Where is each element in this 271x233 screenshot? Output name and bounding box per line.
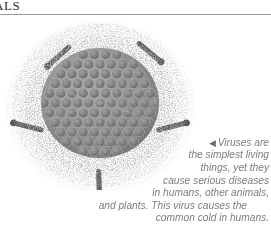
caption-line-3: things, yet they xyxy=(91,162,269,175)
caption-line-1: ◀Viruses are xyxy=(91,137,269,150)
running-head: ALS xyxy=(0,0,20,13)
caption-line-1-text: Viruses are xyxy=(218,137,269,148)
caption-line-2: the simplest living xyxy=(91,149,269,162)
figure-caption: ◀Viruses are the simplest living things,… xyxy=(91,137,269,225)
left-triangle-arrow-icon: ◀ xyxy=(209,138,216,148)
caption-line-6: and plants. This virus causes the xyxy=(91,200,269,213)
caption-line-4: cause serious diseases xyxy=(91,175,269,188)
caption-line-5: in humans, other animals, xyxy=(91,187,269,200)
caption-line-7: common cold in humans. xyxy=(91,212,269,225)
